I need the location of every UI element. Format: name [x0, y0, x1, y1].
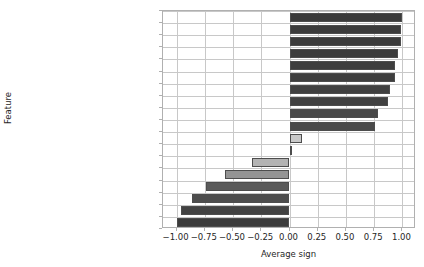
bar [290, 25, 402, 34]
y-axis-tick-mark [159, 192, 162, 193]
y-axis-tick-mark [159, 10, 162, 11]
x-axis-tick-mark [204, 228, 205, 231]
x-axis-tick-mark [317, 228, 318, 231]
y-axis-tick-mark [159, 34, 162, 35]
x-axis-tick-mark [260, 228, 261, 231]
x-axis-tick-mark [289, 228, 290, 231]
bar [290, 73, 395, 82]
x-axis-tick-mark [232, 228, 233, 231]
y-axis-tick-mark [159, 167, 162, 168]
y-axis-tick-mark [159, 22, 162, 23]
y-axis-tick-mark [159, 180, 162, 181]
y-axis-tick-mark [159, 119, 162, 120]
bar [290, 97, 388, 106]
y-axis-tick-mark [159, 71, 162, 72]
bar [290, 109, 378, 118]
x-axis-tick-mark [401, 228, 402, 231]
bar [290, 85, 391, 94]
y-axis-tick-mark [159, 204, 162, 205]
horizontal-gridline [163, 144, 414, 145]
bar [290, 49, 398, 58]
horizontal-gridline [163, 47, 414, 48]
bar [290, 146, 292, 155]
y-axis-tick-mark [159, 216, 162, 217]
bar [225, 170, 289, 179]
y-axis-tick-mark [159, 58, 162, 59]
x-axis-tick-mark [176, 228, 177, 231]
horizontal-gridline [163, 59, 414, 60]
bar [290, 13, 403, 22]
chart-figure: Feature Maximum lesions diameterTobaccoN… [0, 0, 424, 267]
horizontal-gridline [163, 156, 414, 157]
vertical-gridline [402, 11, 403, 227]
y-axis-tick-mark [159, 143, 162, 144]
bar [206, 182, 290, 191]
bar [192, 194, 289, 203]
x-axis-tick-mark [373, 228, 374, 231]
bar [290, 122, 376, 131]
x-axis-tick-mark [345, 228, 346, 231]
y-axis-title: Feature [3, 73, 13, 143]
bar [290, 134, 302, 143]
y-axis-tick-mark [159, 228, 162, 229]
x-axis-tick-label: 1.00 [381, 232, 421, 242]
bar [290, 61, 395, 70]
bar [290, 37, 402, 46]
vertical-gridline [177, 11, 178, 227]
y-axis-tick-mark [159, 83, 162, 84]
y-axis-tick-mark [159, 155, 162, 156]
bar [181, 206, 289, 215]
y-axis-tick-mark [159, 107, 162, 108]
y-axis-tick-mark [159, 95, 162, 96]
y-axis-tick-mark [159, 46, 162, 47]
x-axis-title: Average sign [162, 249, 415, 259]
horizontal-gridline [163, 168, 414, 169]
bar [252, 158, 289, 167]
horizontal-gridline [163, 120, 414, 121]
plot-area [162, 10, 415, 228]
bar [177, 218, 290, 227]
y-axis-tick-mark [159, 131, 162, 132]
horizontal-gridline [163, 132, 414, 133]
